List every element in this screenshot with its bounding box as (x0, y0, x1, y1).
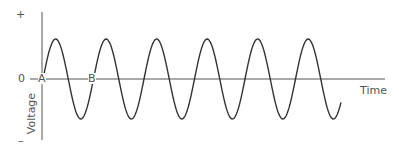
sine-wave-diagram: + – 0 A B Voltage Time (0, 0, 399, 150)
minus-label: – (18, 135, 24, 146)
voltage-axis-label: Voltage (26, 89, 37, 139)
point-a-label: A (38, 73, 46, 84)
zero-label: 0 (18, 73, 25, 84)
diagram-canvas (0, 0, 399, 150)
point-b-label: B (88, 73, 96, 84)
time-axis-label: Time (360, 85, 387, 96)
plus-label: + (16, 9, 25, 20)
